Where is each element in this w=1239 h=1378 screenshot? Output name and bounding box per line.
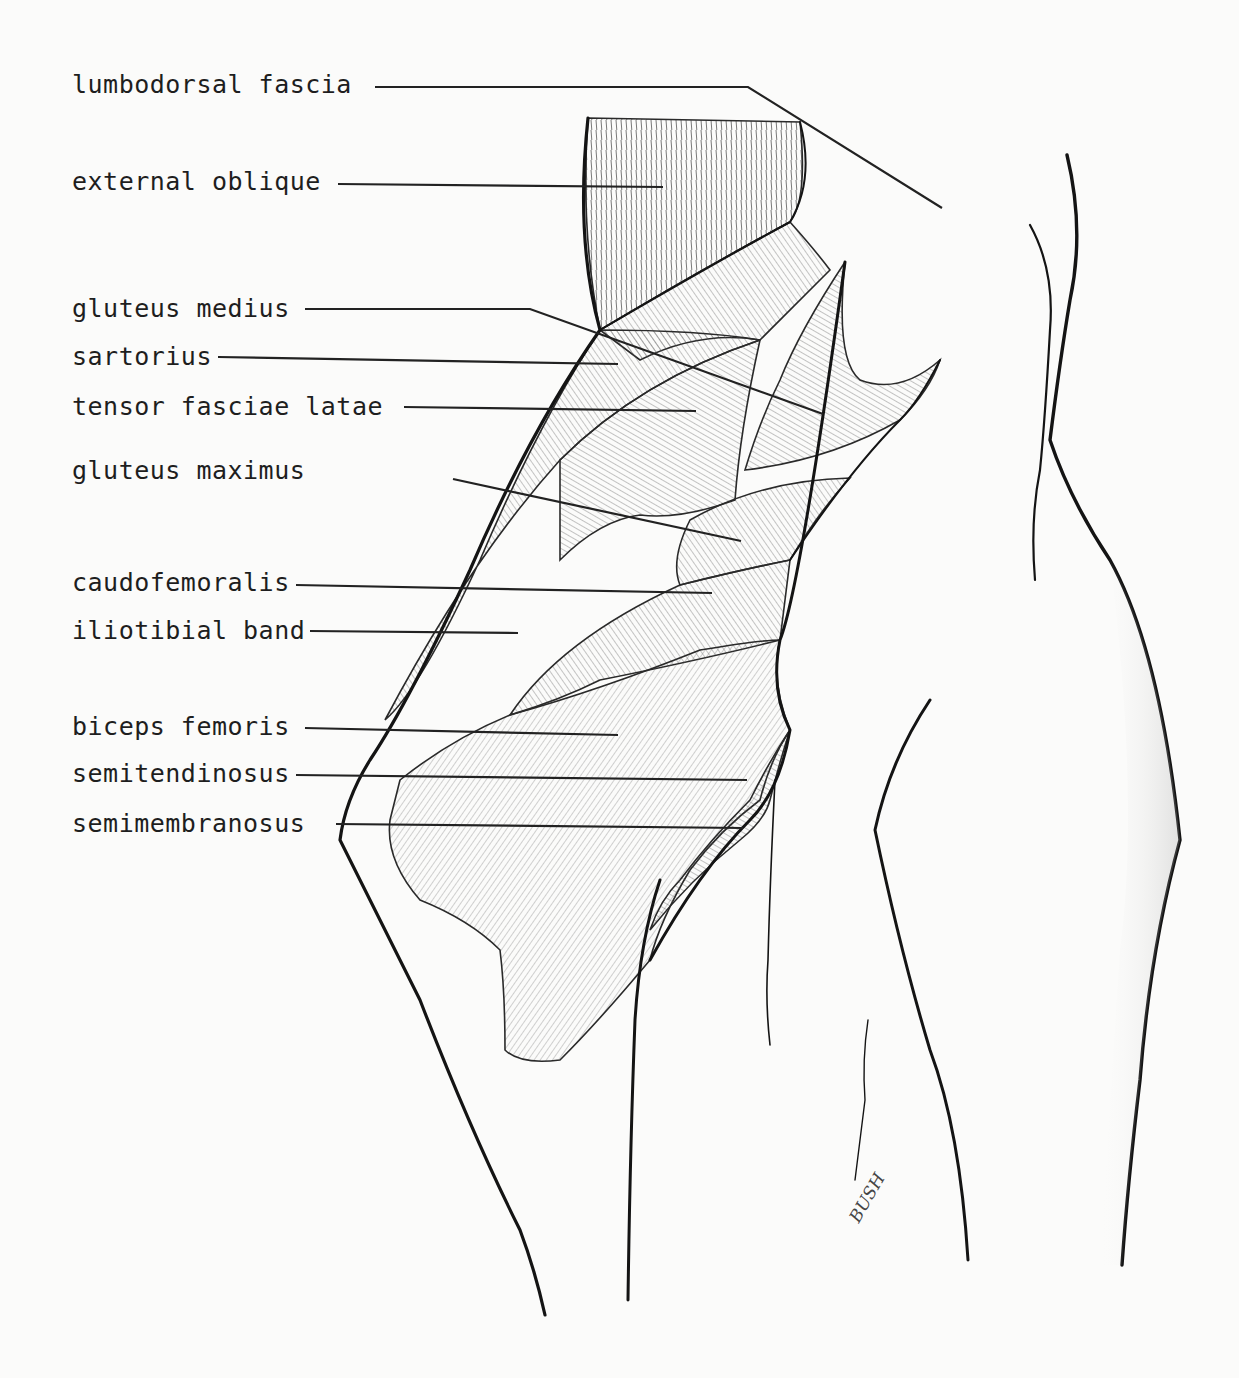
label-sartorius: sartorius xyxy=(72,342,212,371)
label-tensor-fasciae-latae: tensor fasciae latae xyxy=(72,392,383,421)
label-biceps-femoris: biceps femoris xyxy=(72,712,290,741)
anatomy-figure: lumbodorsal fascia external oblique glut… xyxy=(0,0,1239,1378)
tail-line xyxy=(767,780,775,1045)
right-knee-shade xyxy=(1100,560,1180,1265)
label-iliotibial-band: iliotibial band xyxy=(72,616,305,645)
right-hip-inner-crease xyxy=(1030,225,1051,580)
leader-caudofemoralis xyxy=(296,585,712,593)
label-semimembranosus: semimembranosus xyxy=(72,809,305,838)
label-semitendinosus: semitendinosus xyxy=(72,759,290,788)
leader-iliotibial-band xyxy=(310,631,518,633)
label-caudofemoralis: caudofemoralis xyxy=(72,568,290,597)
label-gluteus-medius: gluteus medius xyxy=(72,294,290,323)
label-gluteus-maximus: gluteus maximus xyxy=(72,456,305,485)
biceps-femoris-muscle xyxy=(389,640,790,1061)
artist-signature: BUSH xyxy=(844,1168,889,1226)
leader-sartorius xyxy=(218,357,618,364)
labels: lumbodorsal fascia external oblique glut… xyxy=(72,70,383,838)
muscle-group xyxy=(385,118,940,1061)
tail-line-lower xyxy=(855,1020,868,1180)
label-external-oblique: external oblique xyxy=(72,167,321,196)
right-knee-outline xyxy=(875,700,968,1260)
label-lumbodorsal-fascia: lumbodorsal fascia xyxy=(72,70,352,99)
